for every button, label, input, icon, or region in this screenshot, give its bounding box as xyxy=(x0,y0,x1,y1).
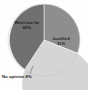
pie-label-went-too-far: Went too far 60% xyxy=(7,20,47,30)
pie-label-no-opinion-name: No opinion xyxy=(2,74,24,79)
pie-label-justified: Justified 31% xyxy=(46,36,76,46)
pie-label-no-opinion: No opinion 8% xyxy=(2,74,50,79)
pie-label-went-too-far-name: Went too far xyxy=(15,20,40,25)
pie-label-no-opinion-percent: 8% xyxy=(26,74,32,79)
pie-chart: Went too far 60% Justified 31% No opinio… xyxy=(0,0,88,90)
pie-label-justified-percent: 31% xyxy=(46,41,76,46)
pie-label-went-too-far-percent: 60% xyxy=(7,25,47,30)
